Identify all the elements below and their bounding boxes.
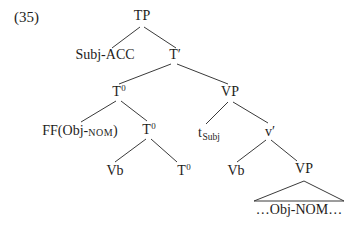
t0-upper-superscript: 0 [121, 83, 126, 93]
node-obj-nom-phrase: …Obj-NOM… [256, 203, 342, 217]
node-t0-upper: T0 [112, 85, 126, 99]
edge-t0upper-t0mid [121, 101, 147, 121]
t0-lower-base: T [177, 163, 186, 178]
t0-mid-base: T [142, 122, 151, 137]
edge-vpupper-vbar [233, 102, 268, 123]
edge-tbar-vpupper [177, 64, 228, 84]
node-tp: TP [134, 9, 150, 23]
triangle-vp-objnom [254, 181, 344, 201]
node-t-subj-trace: tSubj [198, 126, 220, 140]
node-subj-acc: Subj-ACC [75, 48, 134, 62]
edge-vbar-vplower [271, 140, 297, 161]
tree-edges [0, 0, 354, 228]
edge-tbar-t0upper [119, 64, 171, 84]
node-ff-obj-nom: FF(Obj-NOM) [42, 124, 117, 138]
node-vb-right: Vb [227, 164, 244, 178]
edge-tp-subjacc [112, 27, 140, 48]
t0-upper-base: T [112, 84, 121, 99]
node-vp-lower: VP [295, 162, 313, 176]
node-t-bar: T′ [169, 48, 181, 62]
edge-t0mid-vbleft [115, 139, 146, 162]
scanned-figure-page: (35) TP Subj-ACC T′ T0 VP FF(Obj-NOM) T0… [0, 0, 354, 228]
node-t0-lower: T0 [177, 164, 191, 178]
edge-tp-tbar [144, 27, 176, 48]
trace-subscript: Subj [202, 132, 219, 142]
ff-obj-pre: FF(Obj- [42, 123, 88, 138]
ff-obj-post: ) [113, 123, 118, 138]
ff-obj-nom-smallcaps: NOM [88, 127, 113, 138]
node-t0-mid: T0 [142, 123, 156, 137]
t0-lower-superscript: 0 [186, 162, 191, 172]
node-v-bar: v′ [265, 125, 275, 139]
edge-vbar-vbright [237, 140, 266, 162]
edge-t0upper-ff [81, 101, 116, 122]
node-vb-left: Vb [106, 164, 123, 178]
t0-mid-superscript: 0 [151, 121, 156, 131]
edge-t0mid-t0lower [151, 139, 177, 162]
edge-vpupper-tsubj [206, 102, 228, 124]
node-vp-upper: VP [221, 85, 239, 99]
